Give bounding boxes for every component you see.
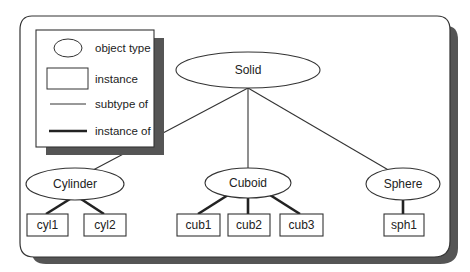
- instance-cub3: cub3: [280, 214, 323, 236]
- cyl2-label: cyl2: [94, 218, 116, 232]
- solid-label: Solid: [235, 63, 262, 77]
- cylinder-label: Cylinder: [53, 177, 97, 191]
- legend-label-instance-of: instance of: [95, 125, 151, 137]
- cub3-label: cub3: [288, 218, 314, 232]
- legend-label-instance: instance: [95, 73, 138, 85]
- node-cuboid: Cuboid: [205, 168, 291, 198]
- cub2-label: cub2: [236, 218, 262, 232]
- cuboid-label: Cuboid: [229, 176, 267, 190]
- diagram-canvas: object type instance subtype of instance…: [0, 0, 470, 272]
- legend-ellipse-icon: [54, 39, 82, 57]
- instance-cub1: cub1: [177, 214, 220, 236]
- node-sphere: Sphere: [366, 168, 440, 200]
- sph1-label: sph1: [391, 218, 417, 232]
- cyl1-label: cyl1: [37, 218, 59, 232]
- node-solid: Solid: [176, 52, 320, 88]
- instance-cub2: cub2: [228, 214, 270, 236]
- instance-sph1: sph1: [384, 214, 424, 236]
- legend-rect-icon: [47, 68, 88, 89]
- sphere-label: Sphere: [384, 177, 423, 191]
- instance-cyl2: cyl2: [84, 214, 126, 236]
- cub1-label: cub1: [185, 218, 211, 232]
- legend-label-object-type: object type: [95, 42, 151, 54]
- instance-cyl1: cyl1: [27, 214, 68, 236]
- node-cylinder: Cylinder: [26, 168, 124, 200]
- legend-label-subtype-of: subtype of: [95, 98, 149, 110]
